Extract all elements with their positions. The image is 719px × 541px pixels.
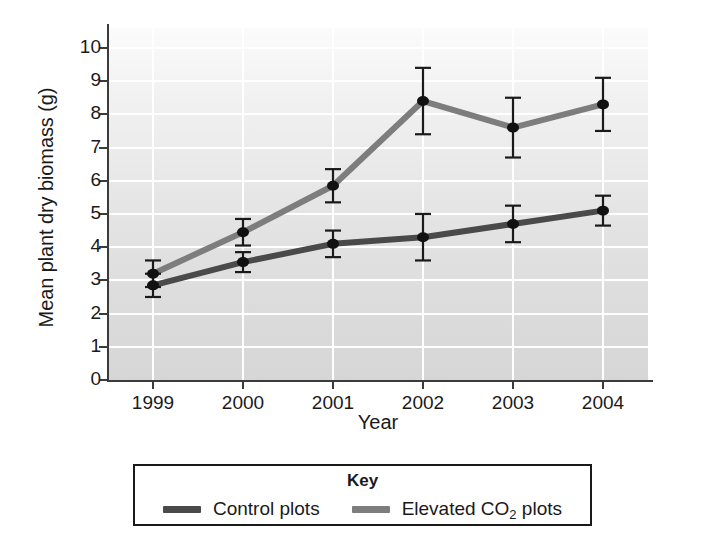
x-axis-line bbox=[107, 380, 653, 382]
y-tick-label: 4 bbox=[90, 235, 101, 257]
chart-figure: Mean plant dry biomass (g) 012345678910 … bbox=[0, 0, 719, 541]
y-tick-label: 3 bbox=[90, 268, 101, 290]
y-tick-label: 0 bbox=[90, 368, 101, 390]
y-tick-label: 5 bbox=[90, 202, 101, 224]
legend-item: Control plots bbox=[163, 498, 320, 520]
legend-box: Key Control plotsElevated CO2 plots bbox=[133, 464, 592, 526]
data-point-marker bbox=[237, 227, 249, 237]
legend-line-swatch bbox=[352, 506, 390, 513]
y-tick-label: 2 bbox=[90, 302, 101, 324]
data-point-marker bbox=[417, 232, 429, 242]
y-tick-label: 8 bbox=[90, 102, 101, 124]
legend-item: Elevated CO2 plots bbox=[352, 498, 562, 520]
series-plot bbox=[108, 28, 648, 380]
data-point-marker bbox=[507, 219, 519, 229]
data-point-marker bbox=[327, 181, 339, 191]
y-axis-title: Mean plant dry biomass (g) bbox=[35, 28, 58, 388]
y-tick-label: 1 bbox=[90, 335, 101, 357]
y-tick-label: 7 bbox=[90, 136, 101, 158]
x-axis-title: Year bbox=[108, 411, 648, 434]
legend-item-label: Elevated CO2 plots bbox=[402, 498, 562, 520]
data-point-marker bbox=[507, 123, 519, 133]
data-point-marker bbox=[597, 99, 609, 109]
data-point-marker bbox=[597, 206, 609, 216]
plot-area: 012345678910 199920002001200220032004 bbox=[108, 28, 648, 380]
legend-line-swatch bbox=[163, 506, 201, 513]
legend-title: Key bbox=[135, 471, 590, 491]
series-line bbox=[153, 101, 603, 274]
y-tick-label: 10 bbox=[80, 36, 101, 58]
data-point-marker bbox=[147, 269, 159, 279]
data-point-marker bbox=[327, 239, 339, 249]
legend-item-label: Control plots bbox=[213, 498, 320, 520]
legend-items: Control plotsElevated CO2 plots bbox=[135, 498, 590, 520]
data-point-marker bbox=[237, 257, 249, 267]
y-tick-label: 9 bbox=[90, 69, 101, 91]
data-point-marker bbox=[147, 280, 159, 290]
y-tick-label: 6 bbox=[90, 169, 101, 191]
data-point-marker bbox=[417, 96, 429, 106]
series-line bbox=[153, 211, 603, 286]
